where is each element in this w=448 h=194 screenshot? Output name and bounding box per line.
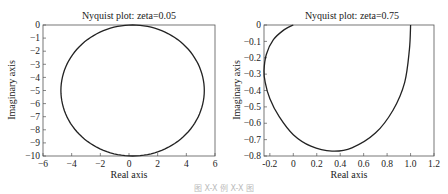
chart-left-ylabel: Imaginary axis (6, 60, 17, 120)
chart-right-ticks: -0.200.20.40.60.81.01.20−0.1−0.2−0.3−0.4… (244, 20, 440, 169)
y-tick-label: −0.1 (244, 37, 261, 47)
figure-caption: 图 X-X 例 X-X 图 (194, 183, 254, 193)
x-tick-label: 0 (127, 159, 132, 169)
y-tick-label: −0.7 (244, 135, 261, 145)
y-tick-label: −5 (30, 86, 40, 96)
x-tick-label: 6 (213, 159, 218, 169)
y-tick-label: −0.6 (244, 118, 261, 128)
x-tick-label: -0.2 (262, 159, 277, 169)
chart-right: Nyquist plot: zeta=0.75 -0.200.20.40.60.… (231, 10, 440, 180)
figure-canvas: Nyquist plot: zeta=0.05 −6−4−202460−1−2−… (0, 0, 448, 194)
chart-right-xlabel: Real axis (331, 169, 368, 180)
chart-right-plot-area (264, 25, 434, 156)
x-tick-label: 1.0 (405, 159, 417, 169)
x-tick-label: −2 (95, 159, 105, 169)
chart-left-xlabel: Real axis (111, 169, 148, 180)
y-tick-label: −0.5 (244, 102, 261, 112)
y-tick-label: −3 (30, 60, 40, 70)
x-tick-label: 1.2 (428, 159, 440, 169)
chart-left: Nyquist plot: zeta=0.05 −6−4−202460−1−2−… (6, 10, 218, 180)
y-tick-label: −0.3 (244, 69, 261, 79)
y-tick-label: 0 (256, 20, 261, 30)
y-tick-label: −6 (30, 99, 40, 109)
chart-left-plot-area (43, 25, 215, 156)
y-tick-label: −2 (30, 46, 40, 56)
x-tick-label: 0.4 (334, 159, 346, 169)
y-tick-label: −9 (30, 138, 40, 148)
y-tick-label: −7 (30, 112, 40, 122)
y-tick-label: −4 (30, 73, 40, 83)
y-tick-label: −8 (30, 125, 40, 135)
y-tick-label: −10 (25, 151, 40, 161)
x-tick-label: 2 (155, 159, 160, 169)
chart-left-title: Nyquist plot: zeta=0.05 (82, 10, 176, 21)
y-tick-label: −1 (30, 33, 40, 43)
x-tick-label: 0.8 (381, 159, 393, 169)
y-tick-label: −0.2 (244, 53, 261, 63)
chart-right-title: Nyquist plot: zeta=0.75 (305, 10, 399, 21)
x-tick-label: 0.2 (311, 159, 323, 169)
x-tick-label: 4 (184, 159, 189, 169)
chart-right-ylabel: Imaginary axis (231, 60, 242, 120)
y-tick-label: 0 (35, 20, 40, 30)
x-tick-label: −4 (67, 159, 77, 169)
chart-right-series-line (264, 25, 411, 151)
x-tick-label: 0 (291, 159, 296, 169)
chart-left-series-line (61, 25, 204, 156)
x-tick-label: 0.6 (358, 159, 370, 169)
y-tick-label: −0.4 (244, 86, 261, 96)
chart-left-ticks: −6−4−202460−1−2−3−4−5−6−7−8−9−10 (25, 20, 217, 169)
y-tick-label: −0.8 (244, 151, 261, 161)
